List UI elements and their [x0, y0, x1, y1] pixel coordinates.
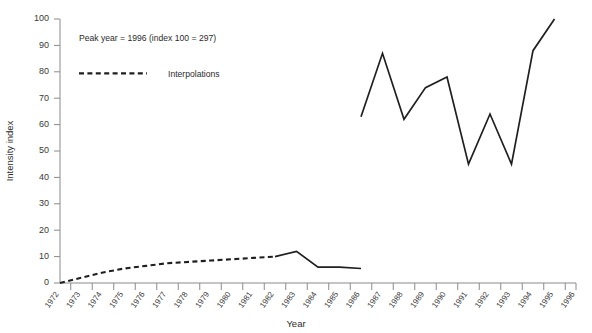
x-tick-label: 1974: [86, 290, 104, 310]
x-axis-title: Year: [286, 318, 305, 329]
x-tick-label-group: 1972197319741975197619771978197919801981…: [43, 290, 577, 310]
y-axis-title: Intensity index: [4, 120, 15, 181]
series-line-observed: [275, 251, 361, 268]
series-line-interpolations: [60, 257, 275, 283]
legend-label-interpolations: Interpolations: [168, 69, 220, 79]
x-tick-label: 1984: [301, 290, 319, 310]
x-tick-label: 1982: [258, 290, 276, 310]
y-tick-label: 50: [39, 145, 49, 155]
x-tick-label: 1990: [430, 290, 448, 310]
y-tick-label: 0: [44, 277, 49, 287]
x-tick-label: 1981: [237, 290, 255, 310]
y-tick-label: 10: [39, 251, 49, 261]
x-tick-label: 1996: [559, 290, 577, 310]
y-tick-label: 60: [39, 119, 49, 129]
series-layer: [60, 19, 555, 283]
y-tick-label: 40: [39, 172, 49, 182]
y-tick-group: 0102030405060708090100: [34, 13, 60, 287]
x-tick-label: 1992: [473, 290, 491, 310]
x-tick-label: 1978: [172, 290, 190, 310]
x-tick-label: 1983: [280, 290, 298, 310]
y-tick-label: 90: [39, 40, 49, 50]
y-tick-label: 80: [39, 66, 49, 76]
y-tick-label: 20: [39, 225, 49, 235]
x-tick-label: 1980: [215, 290, 233, 310]
y-tick-label: 100: [34, 13, 49, 23]
x-tick-label: 1993: [495, 290, 513, 310]
chart-figure: 0102030405060708090100 19721973197419751…: [0, 0, 592, 333]
x-tick-label: 1994: [516, 290, 534, 310]
x-tick-label: 1988: [387, 290, 405, 310]
y-tick-label: 30: [39, 198, 49, 208]
x-tick-label: 1973: [65, 290, 83, 310]
x-tick-label: 1995: [538, 290, 556, 310]
x-tick-label: 1975: [108, 290, 126, 310]
x-tick-label: 1979: [194, 290, 212, 310]
x-tick-label: 1989: [409, 290, 427, 310]
x-tick-label: 1977: [151, 290, 169, 310]
x-tick-label: 1976: [129, 290, 147, 310]
peak-year-annotation: Peak year = 1996 (index 100 = 297): [79, 33, 216, 43]
series-line-observed: [361, 19, 555, 164]
x-tick-label: 1972: [43, 290, 61, 310]
x-tick-label: 1985: [323, 290, 341, 310]
legend: Interpolations: [79, 69, 220, 79]
x-tick-label: 1986: [344, 290, 362, 310]
x-tick-label: 1991: [452, 290, 470, 310]
y-tick-label: 70: [39, 93, 49, 103]
line-chart-svg: 0102030405060708090100 19721973197419751…: [0, 0, 592, 333]
x-tick-group: [71, 283, 576, 290]
x-tick-label: 1987: [366, 290, 384, 310]
